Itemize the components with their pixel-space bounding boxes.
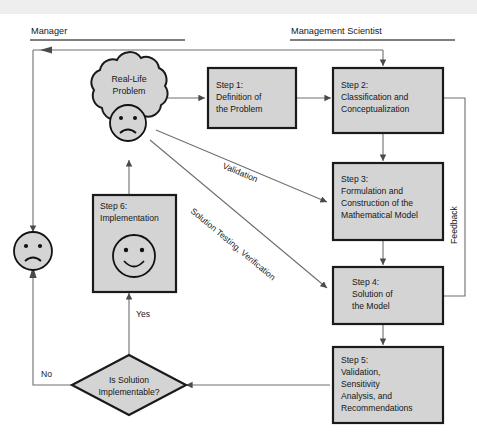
header-management-scientist: Management Scientist: [291, 26, 382, 36]
step1-line2: Definition of: [216, 92, 262, 102]
step5-line2: Validation,: [341, 367, 381, 377]
step5-line5: Recommendations: [341, 403, 413, 413]
header-manager: Manager: [31, 26, 67, 36]
step2-line1: Step 2:: [341, 80, 368, 90]
cloud-face-left-eye: [119, 116, 123, 120]
label-no: No: [41, 369, 52, 379]
no-branch-path: [33, 272, 72, 385]
cloud-line1: Real-Life: [111, 74, 146, 84]
step6-line1: Step 6:: [100, 201, 127, 211]
step3-line3: Construction of the: [341, 198, 413, 208]
step2-line2: Classification and: [341, 92, 409, 102]
step6-face-right-eye: [140, 248, 144, 252]
cloud-line2: Problem: [113, 86, 146, 96]
step6-face-left-eye: [124, 248, 128, 252]
step5-line4: Analysis, and: [341, 391, 392, 401]
step4-line3: the Model: [352, 301, 390, 311]
label-feedback: Feedback: [449, 205, 459, 243]
step3-line2: Formulation and: [341, 186, 403, 196]
label-solution-testing: Solution Testing, Verification: [189, 206, 278, 283]
step4-line2: Solution of: [352, 289, 393, 299]
step3-line1: Step 3:: [341, 174, 368, 184]
step6-line2: Implementation: [100, 213, 159, 223]
decision-line1: Is Solution: [109, 375, 149, 385]
step1-line1: Step 1:: [216, 80, 243, 90]
step5-line1: Step 5:: [341, 355, 368, 365]
label-yes: Yes: [136, 309, 150, 319]
top-return-arrowhead: [40, 46, 52, 53]
manager-face-right-eye: [38, 244, 42, 248]
label-validation: Validation: [221, 161, 259, 185]
manager-sad-face: [14, 232, 52, 270]
manager-face-left-eye: [24, 244, 28, 248]
step3-line4: Mathematical Model: [341, 210, 418, 220]
step5-line3: Sensitivity: [341, 379, 380, 389]
step4-line1: Step 4:: [352, 277, 379, 287]
cloud-face-right-eye: [133, 116, 137, 120]
step1-line3: the Problem: [216, 104, 262, 114]
step2-line3: Conceptualization: [341, 104, 410, 114]
cloud-sad-face: [110, 105, 146, 141]
decision-line2: Implementable?: [98, 387, 159, 397]
step6-happy-face: [113, 235, 155, 277]
flowchart-page: Real-Life Problem Step 1: Definition of …: [0, 0, 477, 435]
flowchart-canvas: Real-Life Problem Step 1: Definition of …: [0, 0, 477, 435]
decision-diamond[interactable]: [72, 355, 186, 415]
